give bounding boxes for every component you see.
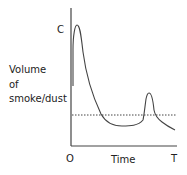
y-axis-label-line-2: of bbox=[9, 79, 19, 90]
smoke-curve bbox=[73, 25, 175, 130]
y-axis-label-line-3: smoke/dust bbox=[9, 93, 67, 104]
x-origin-label: O bbox=[66, 153, 74, 164]
chart: C Volume of smoke/dust O Time T bbox=[0, 0, 187, 175]
y-max-label: C bbox=[57, 24, 64, 35]
y-axis-label-line-1: Volume bbox=[9, 64, 46, 75]
x-end-label: T bbox=[170, 153, 178, 164]
x-axis-label: Time bbox=[110, 154, 135, 165]
